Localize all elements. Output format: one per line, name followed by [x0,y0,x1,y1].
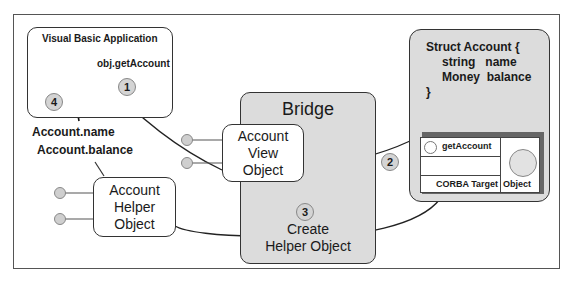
struct-line-4: } [426,85,431,99]
create-helper-object-label: Create Helper Object [241,221,375,255]
account-name-label: Account.name [32,125,115,139]
method-row: getAccount [421,138,501,157]
get-account-method: getAccount [442,141,492,151]
account-helper-line-1: Account [94,182,175,199]
corba-target-object: getAccount CORBA Target Object [420,137,540,193]
account-balance-label: Account.balance [37,143,133,157]
account-view-object-box: Account View Object [222,124,304,182]
obj-get-account-call: obj.getAccount [97,58,170,69]
account-helper-object-box: Account Helper Object [93,177,176,237]
create-line-2: Helper Object [241,238,375,255]
method-port-icon [424,141,437,154]
step-3-badge: 3 [296,203,314,221]
corba-target-label: CORBA Target [436,179,498,189]
account-view-line-1: Account [223,128,303,145]
step-4-badge: 4 [45,93,63,111]
object-circle-icon [509,149,537,177]
struct-line-1: Struct Account { [426,40,520,54]
step-1-badge: 1 [118,78,136,96]
create-line-1: Create [241,221,375,238]
vb-app-title: Visual Basic Application [42,33,158,44]
target-row: CORBA Target [421,176,501,193]
account-view-line-3: Object [223,162,303,179]
struct-line-2: string name [442,55,517,69]
struct-line-3: Money balance [442,70,531,84]
bridge-title: Bridge [241,99,375,120]
empty-row [421,157,501,176]
object-label: Object [503,179,531,189]
account-helper-line-3: Object [94,216,175,233]
corba-struct-box: Struct Account { string name Money balan… [409,29,550,202]
account-view-line-2: View [223,145,303,162]
step-2-badge: 2 [381,153,399,171]
account-helper-line-2: Helper [94,199,175,216]
